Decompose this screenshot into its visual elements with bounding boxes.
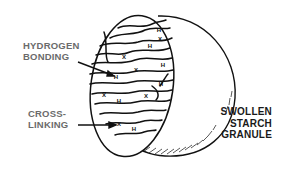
svg-text:H: H xyxy=(161,62,165,68)
svg-text:H: H xyxy=(117,98,121,104)
svg-text:H: H xyxy=(157,27,161,33)
svg-text:X: X xyxy=(158,36,162,42)
svg-text:X: X xyxy=(134,67,138,73)
svg-text:X: X xyxy=(144,93,148,99)
svg-text:X: X xyxy=(117,121,121,127)
cross-section-face xyxy=(82,10,183,162)
swollen-starch-granule-label: SWOLLEN STARCH GRANULE xyxy=(216,106,272,141)
cross-linking-label: CROSS- LINKING xyxy=(28,108,68,130)
svg-text:X: X xyxy=(122,54,126,60)
svg-text:X: X xyxy=(102,92,106,98)
svg-text:H: H xyxy=(159,81,163,87)
svg-text:H: H xyxy=(114,74,118,80)
granule-illustration: H H H H H H H X X X X X X xyxy=(0,0,285,169)
starch-granule-diagram: H H H H H H H X X X X X X HYDROGEN BONDI… xyxy=(0,0,285,169)
svg-text:H: H xyxy=(132,126,136,132)
svg-text:H: H xyxy=(148,43,152,49)
hydrogen-bonding-label: HYDROGEN BONDING xyxy=(23,40,80,62)
